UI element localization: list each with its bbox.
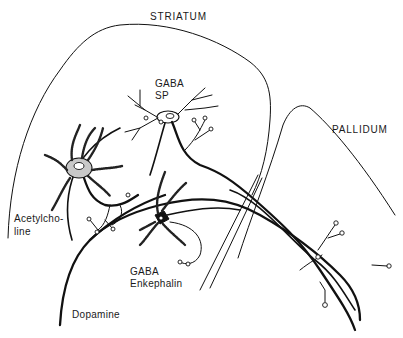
dopamine-axon [60,195,165,325]
bouton [178,260,182,264]
gaba-sp-dendrite-2 [125,118,158,140]
capsule-line-1 [200,175,258,290]
gaba-sp-nucleus [166,114,174,119]
basal-ganglia-diagram: STRIATUM PALLIDUM GABA SP Acetylcho- lin… [0,0,403,338]
bouton [159,120,163,124]
label-enkephalin-line2: Enkephalin [130,278,182,290]
gaba-sp-collateral-branches [185,120,210,150]
enkephalin-axon [167,208,240,215]
label-enkephalin-line1: GABA [130,266,159,278]
pallidal-terminal-right [372,265,387,266]
bouton [209,127,213,131]
bouton [144,116,148,120]
label-dopamine: Dopamine [72,309,120,321]
gaba-sp-axon-collateral [150,123,165,175]
dopamine-branch-lower [230,190,355,310]
enkephalin-collateral [170,222,201,264]
bouton [126,193,130,197]
gaba-sp-axon [172,122,355,330]
bouton [334,221,338,225]
label-striatum: STRIATUM [150,11,207,23]
label-acetylcholine-line2: line [14,226,31,238]
bouton [323,303,328,308]
label-gaba-sp-line1: GABA [155,78,184,90]
bouton [203,116,207,120]
gaba-sp-dendrite [128,90,157,117]
bouton [186,262,190,266]
bouton [111,227,115,231]
acetylcholine-nucleus [74,163,84,170]
bouton [192,118,196,122]
capsule-line-2 [210,178,262,288]
label-pallidum: PALLIDUM [332,124,388,136]
bouton [87,217,91,221]
gaba-sp-dendrite-3 [178,88,218,114]
label-gaba-sp-line2: SP [155,90,169,102]
bouton [340,231,344,235]
enkephalin-nucleus [159,216,162,219]
dopamine-branch-main [90,199,360,320]
acetylcholine-axon [84,178,138,206]
diagram-drawing [0,0,403,338]
label-acetylcholine-line1: Acetylcho- [14,213,64,225]
bouton [95,230,99,234]
bouton [316,255,320,259]
